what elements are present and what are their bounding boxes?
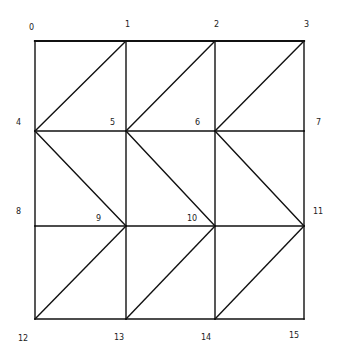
mesh-edges xyxy=(35,41,304,319)
edge-4-9 xyxy=(35,131,126,226)
edge-13-10 xyxy=(126,226,215,319)
node-label-2: 2 xyxy=(214,20,219,29)
edge-6-11 xyxy=(215,131,304,226)
node-label-7: 7 xyxy=(316,118,321,127)
node-label-6: 6 xyxy=(195,118,200,127)
edge-14-11 xyxy=(215,226,304,319)
node-label-11: 11 xyxy=(313,207,323,216)
triangulated-mesh-diagram: 0123456789101112131415 xyxy=(0,0,338,357)
node-label-15: 15 xyxy=(289,331,299,340)
node-label-4: 4 xyxy=(16,118,21,127)
node-label-0: 0 xyxy=(29,23,34,32)
edge-5-2 xyxy=(126,41,215,131)
node-label-13: 13 xyxy=(114,333,124,342)
node-label-9: 9 xyxy=(96,214,101,223)
node-label-10: 10 xyxy=(187,214,197,223)
node-label-14: 14 xyxy=(201,333,211,342)
edge-5-10 xyxy=(126,131,215,226)
node-label-12: 12 xyxy=(18,334,28,343)
node-label-3: 3 xyxy=(304,20,309,29)
node-label-5: 5 xyxy=(110,118,115,127)
node-label-1: 1 xyxy=(125,20,130,29)
edge-6-3 xyxy=(215,41,304,131)
edge-12-9 xyxy=(35,226,126,319)
node-label-8: 8 xyxy=(16,207,21,216)
